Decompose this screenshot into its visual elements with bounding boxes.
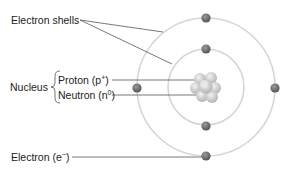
electron-outer-right (270, 83, 279, 92)
electron-label: Electron (e−) (11, 151, 69, 163)
electron-outer-bottom (201, 151, 210, 160)
electron-inner-top (201, 44, 210, 53)
electron-inner-bottom (201, 121, 210, 130)
electron-outer-top (201, 13, 210, 22)
nucleus-label: Nucleus (10, 81, 48, 93)
electron-shells-label: Electron shells (11, 14, 79, 26)
nucleus-cluster (190, 72, 221, 103)
proton-label: Proton (p+) (58, 74, 109, 86)
electron-outer-left (132, 83, 141, 92)
neutron-label: Neutron (n0) (58, 89, 115, 101)
